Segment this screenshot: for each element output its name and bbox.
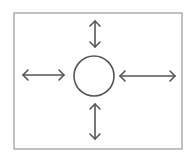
diagram-canvas — [0, 0, 189, 161]
double-arrow-bottom-icon — [90, 104, 100, 139]
double-arrow-top-icon — [90, 21, 100, 47]
frame — [14, 13, 182, 149]
center-circle — [74, 56, 114, 96]
arrows-group — [23, 21, 175, 139]
double-arrow-left-icon — [23, 70, 64, 80]
double-arrow-right-icon — [120, 71, 175, 81]
